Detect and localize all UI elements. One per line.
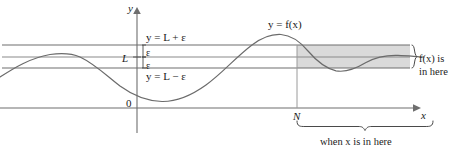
y-axis-arrowhead [133,7,141,14]
n-value-label: N [293,110,300,123]
x-axis-label: x [421,109,426,122]
curve-equation-label: y = f(x) [268,18,302,31]
limit-value-label: L [122,52,128,65]
lower-band-label: y = L − ε [146,70,186,83]
epsilon-lower-label: ε [146,60,150,72]
bottom-brace [297,121,433,131]
epsilon-upper-label: ε [146,47,150,59]
diagram-canvas [0,0,459,156]
y-axis-label: y [128,2,133,15]
when-x-in-here-annotation: when x is in here [320,136,392,148]
origin-label: 0 [126,97,132,110]
x-axis-arrowhead [413,104,421,112]
f-in-here-annotation: f(x) is in here [419,52,448,78]
f-in-here-line1: f(x) is [419,53,444,64]
f-in-here-line2: in here [419,66,448,77]
upper-band-label: y = L + ε [146,31,186,44]
limit-at-infinity-diagram: y x 0 L N y = L + ε y = L − ε ε ε y = f(… [0,0,459,156]
